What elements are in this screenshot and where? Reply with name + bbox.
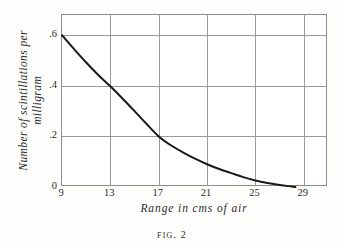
y-axis-title-line-2: milligram <box>30 30 44 171</box>
caption-prefix: Fig. <box>157 228 177 240</box>
y-axis-title: Number of scintillations per milligram <box>10 14 50 186</box>
y-tick-label-p6: .6 <box>49 29 57 40</box>
x-tick-label-17: 17 <box>152 188 163 199</box>
y-tick-label-p4: .4 <box>49 80 57 91</box>
figure-caption: Fig. 2 <box>0 228 344 240</box>
curve-path <box>62 35 295 187</box>
plot-area <box>61 14 327 186</box>
x-tick-label-29: 29 <box>298 188 309 199</box>
x-tick-label-9: 9 <box>58 188 63 199</box>
x-tick-label-25: 25 <box>249 188 260 199</box>
y-tick-label-p2: .2 <box>49 130 57 141</box>
figure-root: Number of scintillations per milligram 9… <box>0 0 344 247</box>
x-axis-title: Range in cms of air <box>61 202 327 214</box>
y-axis-title-text: Number of scintillations per milligram <box>16 30 45 171</box>
caption-number: 2 <box>181 229 187 240</box>
y-tick-label-0: 0 <box>52 181 57 192</box>
x-tick-label-13: 13 <box>104 188 115 199</box>
y-axis-title-line-1: Number of scintillations per <box>16 30 30 171</box>
data-curve <box>62 15 328 187</box>
x-tick-label-21: 21 <box>201 188 212 199</box>
